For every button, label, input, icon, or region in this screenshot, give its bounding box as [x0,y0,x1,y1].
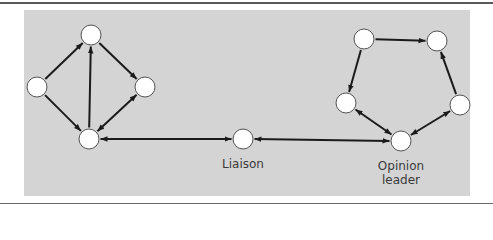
edge-a_left-a_top [45,43,82,79]
edge-liaison-opinion_leader [255,139,390,141]
edge-b_midright-opinion_leader [411,111,450,135]
opinion-leader-label-line1: Opinion [366,159,436,173]
opinion-leader-label: Opinion leader [366,159,436,187]
opinion-leader-label-line2: leader [366,173,436,187]
bottom-rule [0,203,493,204]
edge-a_left-a_bottom [45,95,81,131]
node-b-midright [450,95,470,115]
node-opinion-leader [391,131,411,151]
edge-b_topleft-b_midleft [349,50,361,92]
edge-a_bottom-a_right [97,95,136,131]
edge-b_midleft-opinion_leader [356,110,392,135]
edges-group [45,39,456,141]
node-liaison [233,129,253,149]
edge-a_bottom-a_top [89,47,91,128]
edge-a_top-a_right [99,43,136,79]
node-b-topleft [354,29,374,49]
node-a-right [135,77,155,97]
edge-b_midright-b_topright [441,52,456,94]
node-a-left [27,77,47,97]
node-b-topright [427,31,447,51]
nodes-group [27,25,470,151]
edge-b_topleft-b_topright [376,39,426,40]
node-a-bottom [79,129,99,149]
liaison-label: Liaison [213,157,273,171]
node-a-top [81,25,101,45]
node-b-midleft [336,93,356,113]
